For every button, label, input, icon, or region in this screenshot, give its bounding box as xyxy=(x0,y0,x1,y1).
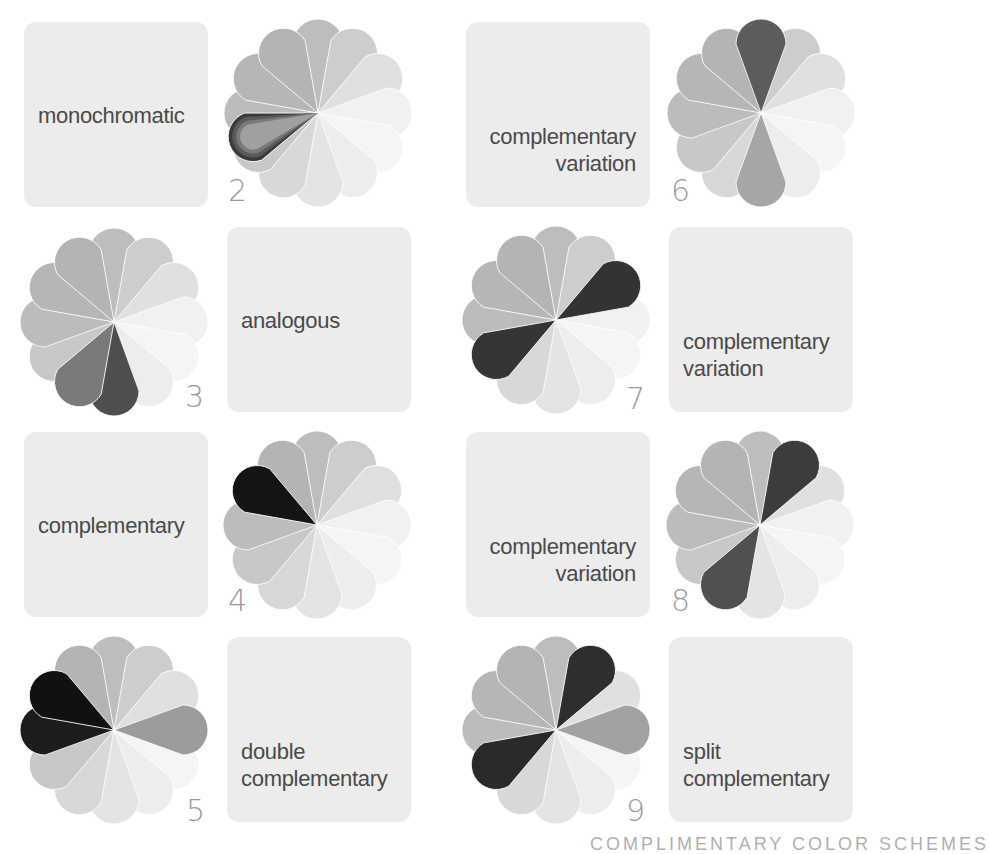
scheme-label-line: complementary xyxy=(38,511,194,538)
scheme-card-analogous: analogous xyxy=(227,227,411,412)
scheme-card-complementary-variation-6: complementary variation xyxy=(466,22,650,207)
color-wheel-3 xyxy=(14,222,214,422)
scheme-label-line: monochromatic xyxy=(38,101,194,128)
scheme-label: complementary variation xyxy=(480,123,636,177)
scheme-number: 5 xyxy=(186,796,205,826)
scheme-label: complementary variation xyxy=(683,328,839,382)
scheme-label-line: complementary xyxy=(683,328,839,355)
scheme-label-line: variation xyxy=(683,355,839,382)
scheme-label: split complementary xyxy=(683,738,839,792)
petal-wheel-svg xyxy=(218,13,418,213)
scheme-card-complementary: complementary xyxy=(24,432,208,617)
scheme-number: 3 xyxy=(185,382,204,412)
scheme-label-line: complementary xyxy=(480,123,636,150)
scheme-label-line: split xyxy=(683,738,839,765)
scheme-number: 7 xyxy=(626,384,645,414)
scheme-label-line: complementary xyxy=(241,765,397,792)
petal-wheel-svg xyxy=(661,13,861,213)
scheme-label-line: variation xyxy=(480,560,636,587)
scheme-card-split-complementary: split complementary xyxy=(669,637,853,822)
color-wheel-6 xyxy=(661,13,861,213)
scheme-number: 6 xyxy=(671,176,690,206)
scheme-label-line: double xyxy=(241,738,397,765)
scheme-label: complementary variation xyxy=(480,533,636,587)
color-wheel-2 xyxy=(218,13,418,213)
petal-wheel-svg xyxy=(14,630,214,830)
scheme-number: 8 xyxy=(671,586,690,616)
scheme-card-complementary-variation-7: complementary variation xyxy=(669,227,853,412)
scheme-number: 9 xyxy=(626,796,645,826)
scheme-label: analogous xyxy=(241,306,397,333)
scheme-card-complementary-variation-8: complementary variation xyxy=(466,432,650,617)
scheme-label-line: complementary xyxy=(480,533,636,560)
scheme-number: 4 xyxy=(228,586,247,616)
scheme-card-double-complementary: double complementary xyxy=(227,637,411,822)
scheme-label-line: variation xyxy=(480,150,636,177)
scheme-label-line: complementary xyxy=(683,765,839,792)
scheme-label-line: analogous xyxy=(241,306,397,333)
scheme-label: monochromatic xyxy=(38,101,194,128)
footer-caption: COMPLIMENTARY COLOR SCHEMES xyxy=(590,834,989,854)
scheme-number: 2 xyxy=(228,176,247,206)
petal-wheel-svg xyxy=(14,222,214,422)
scheme-label: complementary xyxy=(38,511,194,538)
color-wheel-5 xyxy=(14,630,214,830)
scheme-label: double complementary xyxy=(241,738,397,792)
scheme-card-monochromatic: monochromatic xyxy=(24,22,208,207)
